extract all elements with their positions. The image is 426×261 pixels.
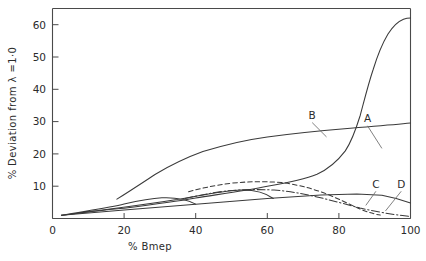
chart-figure: 10 20 30 40 50 60 0 20 40 60 80 100 % De… bbox=[0, 0, 426, 261]
x-axis-ticks bbox=[53, 213, 411, 219]
x-tick-label-40: 40 bbox=[189, 224, 202, 236]
y-tick-label-30: 30 bbox=[33, 115, 46, 127]
x-tick-label-20: 20 bbox=[117, 224, 130, 236]
x-tick-label-100: 100 bbox=[400, 224, 420, 236]
y-axis-title: % Deviation from λ =1·0 bbox=[7, 47, 18, 180]
x-axis-title: % Bmep bbox=[128, 241, 172, 252]
x-tick-label-0: 0 bbox=[49, 224, 56, 236]
y-axis-ticks bbox=[53, 25, 59, 187]
y-tick-label-40: 40 bbox=[33, 83, 46, 95]
leader-line-D bbox=[386, 191, 402, 211]
series-D-curve bbox=[185, 190, 411, 217]
leader-line-C bbox=[366, 191, 376, 205]
chart-plot-area: 10 20 30 40 50 60 0 20 40 60 80 100 % De… bbox=[0, 0, 426, 261]
x-tick-label-60: 60 bbox=[261, 224, 274, 236]
curve-label-B: B bbox=[309, 109, 316, 121]
series-C-curve bbox=[189, 182, 381, 215]
series-A-curve bbox=[61, 18, 410, 215]
y-tick-label-10: 10 bbox=[33, 180, 46, 192]
series-baseline bbox=[61, 194, 410, 215]
x-axis-tick-labels: 0 20 40 60 80 100 bbox=[49, 224, 420, 236]
chart-curve-labels: A B C D bbox=[309, 109, 406, 190]
curve-label-A: A bbox=[364, 112, 372, 124]
leader-line-A bbox=[368, 126, 382, 149]
y-tick-label-50: 50 bbox=[33, 51, 46, 63]
chart-frame bbox=[53, 9, 411, 219]
y-tick-label-60: 60 bbox=[33, 19, 46, 31]
y-tick-label-20: 20 bbox=[33, 148, 46, 160]
curve-label-C: C bbox=[372, 178, 379, 190]
y-axis-tick-labels: 10 20 30 40 50 60 bbox=[33, 19, 46, 193]
chart-leader-lines bbox=[312, 123, 401, 211]
chart-series-group bbox=[61, 18, 410, 217]
leader-line-B bbox=[312, 123, 326, 137]
x-tick-label-80: 80 bbox=[332, 224, 345, 236]
series-B-curve bbox=[117, 123, 411, 199]
curve-label-D: D bbox=[397, 178, 405, 190]
